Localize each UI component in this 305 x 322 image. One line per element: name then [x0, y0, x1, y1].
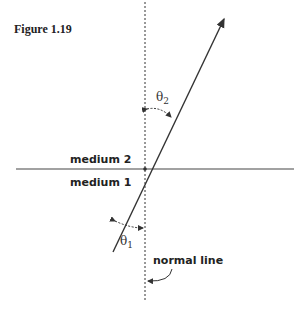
- theta2-arc: [147, 108, 171, 117]
- normal-pointer-arrow: [148, 269, 172, 281]
- normal-line-label: normal line: [153, 254, 223, 267]
- theta2-symbol: θ2: [156, 90, 169, 106]
- medium-1-label: medium 1: [70, 176, 131, 189]
- theta1-symbol: θ1: [120, 234, 133, 250]
- light-ray: [113, 19, 224, 252]
- theta1-arc: [115, 221, 143, 228]
- refraction-diagram: medium 2 medium 1 normal line θ2 θ1: [0, 0, 305, 322]
- medium-2-label: medium 2: [70, 153, 131, 166]
- incidence-point: [143, 167, 147, 171]
